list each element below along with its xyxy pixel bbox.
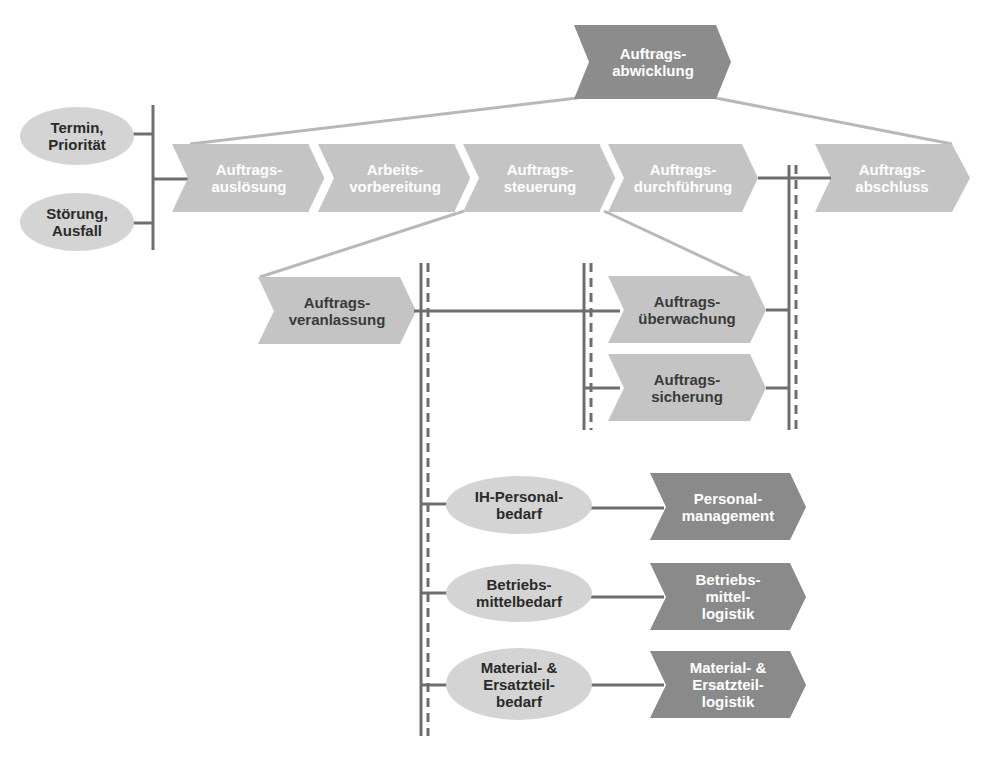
label-ih-personalbedarf: IH-Personal- bedarf bbox=[446, 476, 592, 534]
label-betriebsmittelbedarf: Betriebs- mittelbedarf bbox=[446, 564, 592, 622]
label-auftragsdurchfuehrung: Auftrags- durchführung bbox=[622, 144, 744, 212]
middle-sync-bar bbox=[584, 263, 591, 430]
connector-top-right bbox=[716, 98, 952, 144]
label-auftragsueberwachung: Auftrags- überwachung bbox=[624, 276, 750, 343]
label-auftragsausloesung: Auftrags- auslösung bbox=[188, 144, 310, 212]
label-material-ersatzteilbedarf: Material- & Ersatzteil- bedarf bbox=[446, 648, 592, 720]
label-material-ersatzteillogistik: Material- & Ersatzteil- logistik bbox=[666, 651, 790, 718]
label-auftragsabschluss: Auftrags- abschluss bbox=[831, 144, 953, 212]
label-auftragssicherung: Auftrags- sicherung bbox=[624, 354, 750, 421]
left-sync-bar bbox=[421, 263, 428, 736]
label-auftragssteuerung: Auftrags- steuerung bbox=[479, 144, 601, 212]
label-stoerung-ausfall: Störung, Ausfall bbox=[20, 193, 134, 251]
label-auftragsveranlassung: Auftrags- veranlassung bbox=[274, 277, 400, 344]
connector-top-left bbox=[190, 98, 577, 144]
label-betriebsmittellogistik: Betriebs- mittel- logistik bbox=[666, 563, 790, 630]
label-termin-prioritaet: Termin, Priorität bbox=[20, 107, 134, 165]
label-auftragsabwicklung: Auftrags- abwicklung bbox=[590, 25, 716, 99]
connector-sub-right bbox=[604, 211, 745, 277]
connector-sub-left bbox=[260, 211, 464, 277]
label-personalmanagement: Personal- management bbox=[666, 473, 790, 540]
label-arbeitsvorbereitung: Arbeits- vorbereitung bbox=[334, 144, 456, 212]
right-sync-bar bbox=[789, 165, 796, 430]
input-bracket bbox=[133, 105, 188, 250]
